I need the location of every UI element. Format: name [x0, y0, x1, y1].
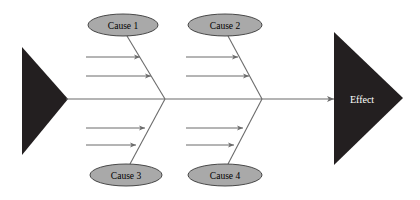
cause-node-layer: Cause 1Cause 2Cause 3Cause 4 [88, 14, 262, 186]
fishbone-diagram: Effect Cause 1Cause 2Cause 3Cause 4 [0, 0, 420, 200]
cause-3-rib [130, 99, 165, 164]
cause-1-node[interactable]: Cause 1 [88, 14, 158, 36]
tail-triangle-icon [22, 47, 68, 155]
cause-1-label: Cause 1 [108, 21, 139, 31]
cause-3-label: Cause 3 [111, 171, 142, 181]
cause-3-node[interactable]: Cause 3 [90, 164, 162, 186]
cause-2-label: Cause 2 [210, 21, 241, 31]
cause-2-rib [228, 36, 262, 99]
fishbone-diagram-canvas: Effect Cause 1Cause 2Cause 3Cause 4 [0, 0, 420, 200]
cause-1-rib [127, 36, 165, 99]
cause-4-label: Cause 4 [210, 171, 241, 181]
effect-label: Effect [350, 94, 374, 105]
cause-4-rib [228, 99, 262, 164]
cause-branch-layer [86, 36, 262, 164]
cause-2-node[interactable]: Cause 2 [188, 14, 262, 36]
cause-4-node[interactable]: Cause 4 [188, 164, 262, 186]
